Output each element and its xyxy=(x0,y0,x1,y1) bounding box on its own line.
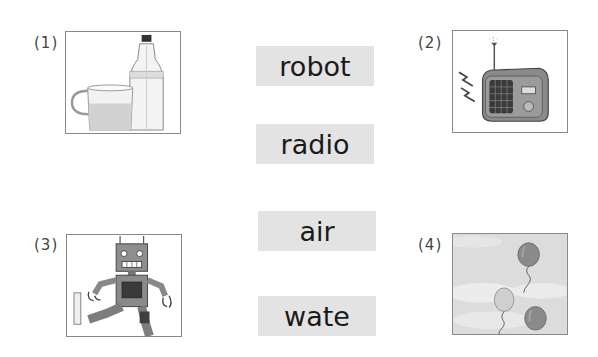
word-card-4: wate xyxy=(258,296,376,336)
item-4-number: (4) xyxy=(418,236,442,254)
word-card-1: robot xyxy=(256,46,374,86)
item-1-picture-cup-and-bottle xyxy=(65,31,181,134)
radio-icon: · ⁝ · xyxy=(453,31,567,132)
item-1-number: (1) xyxy=(34,34,58,52)
cup-and-bottle-icon xyxy=(66,32,180,133)
item-2-picture-radio: · ⁝ · xyxy=(452,30,568,133)
item-2-number: (2) xyxy=(418,34,442,52)
item-3-picture-robot xyxy=(66,234,182,337)
word-card-3: air xyxy=(258,211,376,251)
robot-icon xyxy=(67,235,181,336)
svg-text:· ⁝ ·: · ⁝ · xyxy=(488,36,497,42)
word-card-2: radio xyxy=(256,124,374,164)
item-3-number: (3) xyxy=(34,236,58,254)
balloons-icon xyxy=(453,234,567,334)
item-4-picture-balloons xyxy=(452,233,568,335)
